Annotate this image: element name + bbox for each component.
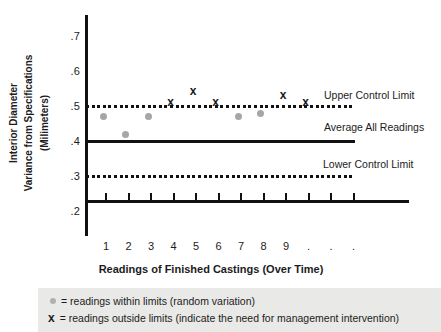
- y-axis-title-line2: Variance from Specifications: [21, 38, 36, 208]
- y-axis-title: Interior Diameter Variance from Specific…: [6, 38, 52, 208]
- y-tick-label: .5: [56, 100, 80, 112]
- data-point-outside: x: [212, 96, 219, 108]
- x-tick-label: 6: [210, 239, 228, 254]
- y-tick-label: .4: [56, 135, 80, 147]
- x-tick: [128, 193, 130, 202]
- outside-x-icon: x: [48, 312, 55, 324]
- legend-within-text: = readings within limits (random variati…: [61, 295, 255, 307]
- average-readings-label: Average All Readings: [324, 121, 424, 133]
- upper-control-limit-label: Upper Control Limit: [324, 89, 414, 101]
- x-tick: [353, 193, 355, 202]
- data-point-outside: x: [280, 89, 287, 101]
- legend-row-within: = readings within limits (random variati…: [50, 295, 255, 307]
- x-tick-label: .: [345, 239, 363, 254]
- x-tick-label: 3: [142, 239, 160, 254]
- data-point-outside: x: [167, 96, 174, 108]
- y-tick-label: .6: [56, 65, 80, 77]
- x-tick: [105, 193, 107, 202]
- data-point-outside: x: [190, 85, 197, 97]
- data-point-within: [100, 113, 107, 120]
- control-chart: Interior Diameter Variance from Specific…: [0, 0, 441, 332]
- x-tick-label: 4: [165, 239, 183, 254]
- legend-outside-text: = readings outside limits (indicate the …: [60, 312, 399, 324]
- x-tick: [150, 193, 152, 202]
- y-axis-title-line3: (Milimeters): [37, 38, 52, 208]
- lower-control-limit-label: Lower Control Limit: [323, 158, 413, 170]
- y-tick-label: .2: [56, 205, 80, 217]
- data-point-within: [145, 113, 152, 120]
- x-tick: [173, 193, 175, 202]
- x-axis-line: [86, 200, 409, 203]
- legend-row-outside: x = readings outside limits (indicate th…: [48, 312, 399, 324]
- average-line: [86, 140, 355, 143]
- y-axis-title-line1: Interior Diameter: [6, 38, 21, 208]
- x-tick-label: 7: [232, 239, 250, 254]
- x-tick: [285, 193, 287, 202]
- x-tick: [218, 193, 220, 202]
- y-tick-label: .3: [56, 170, 80, 182]
- x-tick-label: 1: [97, 239, 115, 254]
- data-point-within: [235, 113, 242, 120]
- x-tick-label: .: [322, 239, 340, 254]
- y-tick-label: .7: [56, 30, 80, 42]
- x-tick-label: 9: [277, 239, 295, 254]
- x-tick: [263, 193, 265, 202]
- lower-control-limit-line: [86, 175, 353, 178]
- legend: = readings within limits (random variati…: [38, 288, 441, 332]
- x-tick: [308, 193, 310, 202]
- data-point-within: [257, 110, 264, 117]
- x-tick-label: .: [300, 239, 318, 254]
- x-tick-label: 5: [187, 239, 205, 254]
- data-point-within: [122, 131, 129, 138]
- x-tick: [195, 193, 197, 202]
- data-point-outside: x: [302, 96, 309, 108]
- x-tick-label: 2: [120, 239, 138, 254]
- x-tick: [330, 193, 332, 202]
- within-dot-icon: [50, 298, 56, 304]
- x-tick-label: 8: [255, 239, 273, 254]
- x-tick: [240, 193, 242, 202]
- x-axis-title: Readings of Finished Castings (Over Time…: [86, 263, 336, 275]
